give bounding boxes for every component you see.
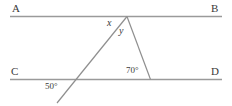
angle-label-y: y bbox=[119, 26, 123, 36]
vertex-label-c: C bbox=[11, 66, 18, 77]
vertex-label-d: D bbox=[211, 66, 219, 77]
geometry-figure: A B C D x y 70° 50° bbox=[0, 0, 232, 106]
angle-label-70: 70° bbox=[126, 66, 139, 75]
angle-label-x: x bbox=[107, 18, 111, 28]
vertex-label-b: B bbox=[211, 3, 218, 14]
transversal-ray bbox=[57, 17, 127, 104]
vertex-label-a: A bbox=[12, 3, 20, 14]
geometry-canvas bbox=[0, 0, 232, 106]
angle-label-50: 50° bbox=[45, 82, 58, 91]
